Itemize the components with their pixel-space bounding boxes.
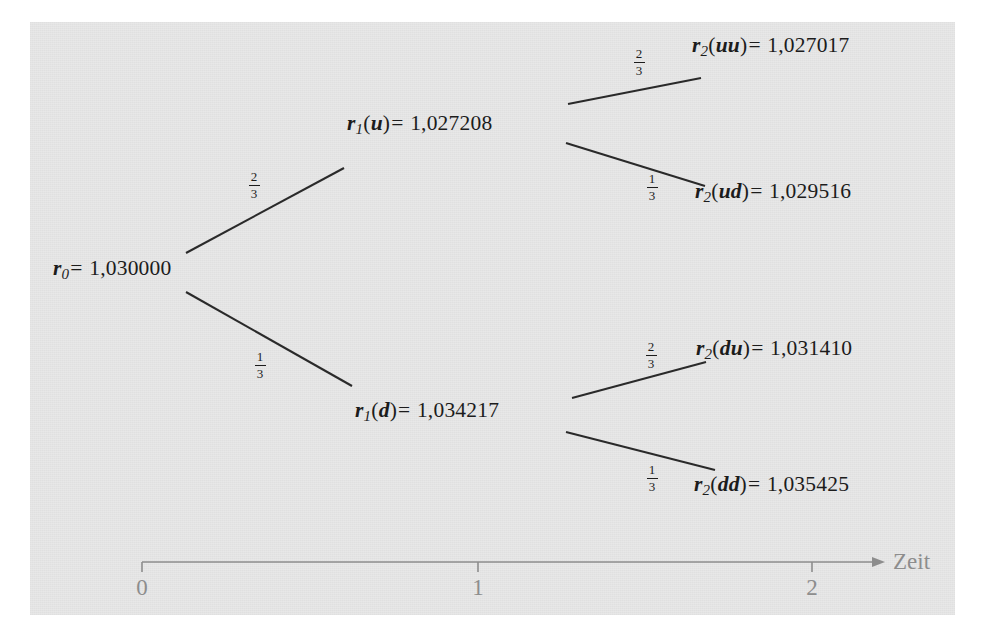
fraction-numerator: 1 [641, 463, 663, 477]
node-arg-r2dd: dd [718, 472, 740, 496]
fraction-denominator: 3 [243, 187, 265, 201]
fraction-numerator: 2 [628, 47, 650, 61]
node-equals-r1d: = [397, 398, 411, 422]
node-symbol-r2uu: r [692, 33, 701, 57]
node-arg-r1u: u [371, 111, 383, 135]
node-arg-r1d: d [379, 398, 390, 422]
node-value-r2du: 1,031410 [770, 336, 852, 360]
fraction-denominator: 3 [628, 64, 650, 78]
fraction-numerator: 1 [641, 172, 663, 186]
node-label-r2dd: r2(dd)= 1,035425 [694, 472, 849, 499]
edge-r1u-r2ud [566, 143, 705, 186]
node-equals-r2du: = [750, 336, 764, 360]
fraction-denominator: 3 [640, 357, 662, 371]
fraction-denominator: 3 [641, 480, 663, 494]
node-arg-r2ud: ud [719, 179, 742, 203]
fraction-numerator: 1 [249, 350, 271, 364]
node-symbol-r0: r [53, 256, 62, 280]
tree-edges [0, 0, 981, 640]
node-symbol-r2dd: r [694, 472, 703, 496]
node-value-r2uu: 1,027017 [767, 33, 849, 57]
fraction-denominator: 3 [641, 189, 663, 203]
node-symbol-r1u: r [347, 111, 356, 135]
node-paren-open-r2ud: ( [711, 179, 718, 203]
node-label-r1u: r1(u)= 1,027208 [347, 111, 492, 138]
probability-r0-r1u: 2 3 [243, 170, 265, 200]
edge-r1d-r2du [572, 362, 706, 398]
node-value-r0: 1,030000 [89, 256, 171, 280]
node-paren-open-r2du: ( [712, 336, 719, 360]
node-symbol-r1d: r [355, 398, 364, 422]
node-symbol-r2ud: r [695, 179, 704, 203]
probability-r1d-r2du: 2 3 [640, 340, 662, 370]
node-value-r2dd: 1,035425 [767, 472, 849, 496]
probability-r1u-r2ud: 1 3 [641, 172, 663, 202]
node-label-r2uu: r2(uu)= 1,027017 [692, 33, 850, 60]
node-equals-r2uu: = [747, 33, 761, 57]
node-label-r1d: r1(d)= 1,034217 [355, 398, 499, 425]
node-equals-r2dd: = [747, 472, 761, 496]
edge-r0-r1u [186, 168, 344, 253]
node-arg-r2du: du [720, 336, 743, 360]
axis-arrowhead [872, 557, 885, 567]
axis-tick-label-1: 1 [458, 575, 498, 601]
probability-r1d-r2dd: 1 3 [641, 463, 663, 493]
axis-tick-label-0: 0 [122, 575, 162, 601]
time-axis [142, 557, 885, 572]
node-value-r2ud: 1,029516 [769, 179, 851, 203]
probability-r1u-r2uu: 2 3 [628, 47, 650, 77]
node-equals-r0: = [69, 256, 83, 280]
figure-canvas: r0= 1,030000 r1(u)= 1,027208 r1(d)= 1,03… [0, 0, 981, 640]
axis-tick-label-2: 2 [792, 575, 832, 601]
node-arg-r2uu: uu [716, 33, 740, 57]
axis-label-zeit: Zeit [893, 549, 930, 575]
node-value-r1d: 1,034217 [417, 398, 499, 422]
node-label-r2ud: r2(ud)= 1,029516 [695, 179, 851, 206]
fraction-numerator: 2 [640, 340, 662, 354]
node-paren-open-r1u: ( [363, 111, 370, 135]
node-equals-r2ud: = [749, 179, 763, 203]
fraction-numerator: 2 [243, 170, 265, 184]
node-value-r1u: 1,027208 [410, 111, 492, 135]
node-paren-close-r2dd: ) [740, 472, 747, 496]
node-paren-open-r2uu: ( [708, 33, 715, 57]
node-equals-r1u: = [390, 111, 404, 135]
node-label-r2du: r2(du)= 1,031410 [696, 336, 852, 363]
probability-r0-r1d: 1 3 [249, 350, 271, 380]
node-paren-close-r1d: ) [390, 398, 397, 422]
edge-r1u-r2uu [568, 78, 701, 104]
node-paren-open-r2dd: ( [710, 472, 717, 496]
node-paren-open-r1d: ( [371, 398, 378, 422]
fraction-denominator: 3 [249, 367, 271, 381]
node-symbol-r2du: r [696, 336, 705, 360]
node-label-r0: r0= 1,030000 [53, 256, 171, 283]
